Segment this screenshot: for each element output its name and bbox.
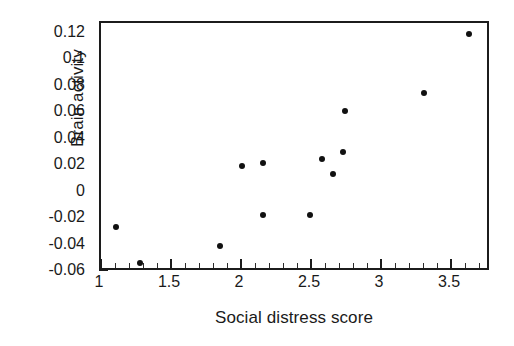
x-tick-minor bbox=[143, 263, 144, 268]
x-tick-minor bbox=[115, 263, 116, 268]
x-tick-label: 2 bbox=[219, 274, 259, 290]
plot-area bbox=[99, 21, 489, 270]
y-axis-label: Brain activity bbox=[68, 18, 88, 178]
data-point bbox=[239, 163, 245, 169]
x-tick-label: 2.5 bbox=[289, 274, 329, 290]
x-tick-minor bbox=[269, 263, 270, 268]
y-tick-label: 0.12 bbox=[0, 24, 85, 40]
x-tick-major bbox=[450, 259, 452, 268]
x-tick-minor bbox=[185, 263, 186, 268]
x-tick-minor bbox=[465, 263, 466, 268]
x-tick-minor bbox=[353, 263, 354, 268]
data-point bbox=[307, 212, 313, 218]
x-tick-label: 3 bbox=[359, 274, 399, 290]
y-tick-label: 0.06 bbox=[0, 103, 85, 119]
x-tick-major bbox=[380, 259, 382, 268]
y-tick-label: 0.02 bbox=[0, 156, 85, 172]
x-tick-minor bbox=[395, 263, 396, 268]
x-tick-major bbox=[170, 259, 172, 268]
x-tick-minor bbox=[255, 263, 256, 268]
x-tick-label: 3.5 bbox=[429, 274, 469, 290]
y-tick-label: 0.04 bbox=[0, 130, 85, 146]
x-tick-minor bbox=[199, 263, 200, 268]
x-tick-minor bbox=[367, 263, 368, 268]
x-axis-label: Social distress score bbox=[99, 308, 489, 328]
x-tick-minor bbox=[283, 263, 284, 268]
data-point bbox=[113, 224, 119, 230]
scatter-plot-figure: Brain activity 0.120.10.080.060.040.020-… bbox=[0, 0, 514, 346]
x-tick-minor bbox=[409, 263, 410, 268]
x-tick-label: 1.5 bbox=[149, 274, 189, 290]
x-tick-minor bbox=[423, 263, 424, 268]
x-tick-major bbox=[240, 259, 242, 268]
data-point bbox=[217, 243, 223, 249]
y-tick-label: -0.06 bbox=[0, 262, 85, 278]
data-point bbox=[421, 90, 427, 96]
data-point bbox=[466, 31, 472, 37]
x-tick-major bbox=[310, 259, 312, 268]
data-point bbox=[340, 149, 346, 155]
x-tick-minor bbox=[437, 263, 438, 268]
x-tick-minor bbox=[227, 263, 228, 268]
y-tick-label: -0.04 bbox=[0, 236, 85, 252]
x-tick-minor bbox=[213, 263, 214, 268]
data-point bbox=[330, 171, 336, 177]
y-tick-label: 0.1 bbox=[0, 50, 85, 66]
x-tick-minor bbox=[157, 263, 158, 268]
x-tick-minor bbox=[339, 263, 340, 268]
y-tick-label: -0.02 bbox=[0, 209, 85, 225]
x-tick-minor bbox=[325, 263, 326, 268]
x-tick-major bbox=[100, 259, 102, 268]
data-point bbox=[342, 108, 348, 114]
y-tick-label: 0.08 bbox=[0, 77, 85, 93]
data-point bbox=[260, 160, 266, 166]
x-tick-minor bbox=[479, 263, 480, 268]
x-tick-minor bbox=[297, 263, 298, 268]
x-tick-minor bbox=[129, 263, 130, 268]
data-point bbox=[260, 212, 266, 218]
x-tick-label: 1 bbox=[79, 274, 119, 290]
data-point bbox=[319, 156, 325, 162]
y-tick-label: 0 bbox=[0, 183, 85, 199]
